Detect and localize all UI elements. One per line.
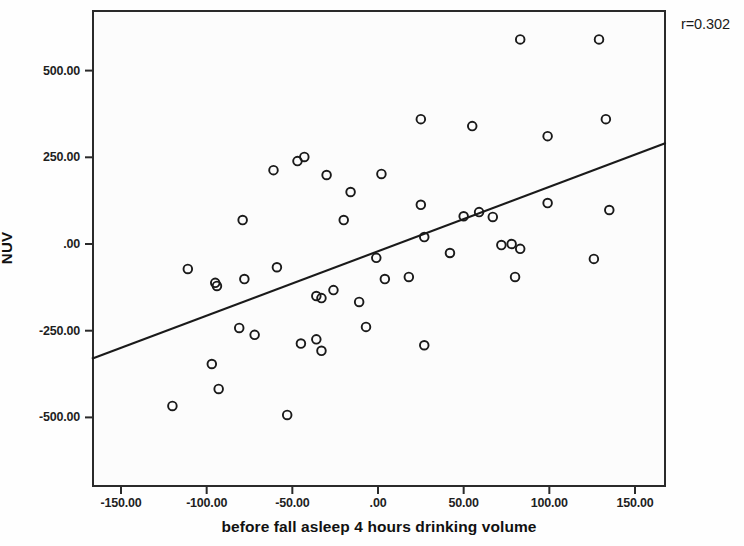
y-axis-tick-label: -250.00 [39,324,80,338]
x-axis-tick-labels: -150.00-100.00-50.00.0050.00100.00150.00 [0,496,744,518]
y-axis-tick-labels: 500.00250.00.00-250.00-500.00 [0,0,80,546]
x-axis-tick-label: -150.00 [101,496,142,510]
scatter-plot-figure: 500.00250.00.00-250.00-500.00 -150.00-10… [0,0,744,546]
x-axis-tick-label: .00 [370,496,387,510]
y-axis-title: NUV [0,232,15,264]
x-axis-tick-label: 100.00 [531,496,568,510]
x-axis-tick-label: -100.00 [186,496,227,510]
correlation-annotation: r=0.302 [681,16,730,32]
x-axis-tick-label: 50.00 [449,496,479,510]
x-axis-tick-label: 150.00 [616,496,653,510]
x-axis-tick-label: -50.00 [275,496,309,510]
y-axis-tick-label: 500.00 [43,64,80,78]
y-axis-tick-label: 250.00 [43,150,80,164]
plot-area-frame [92,10,666,487]
y-axis-tick-label: -500.00 [39,410,80,424]
x-axis-title: before fall asleep 4 hours drinking volu… [92,518,666,536]
y-axis-tick-label: .00 [63,237,80,251]
